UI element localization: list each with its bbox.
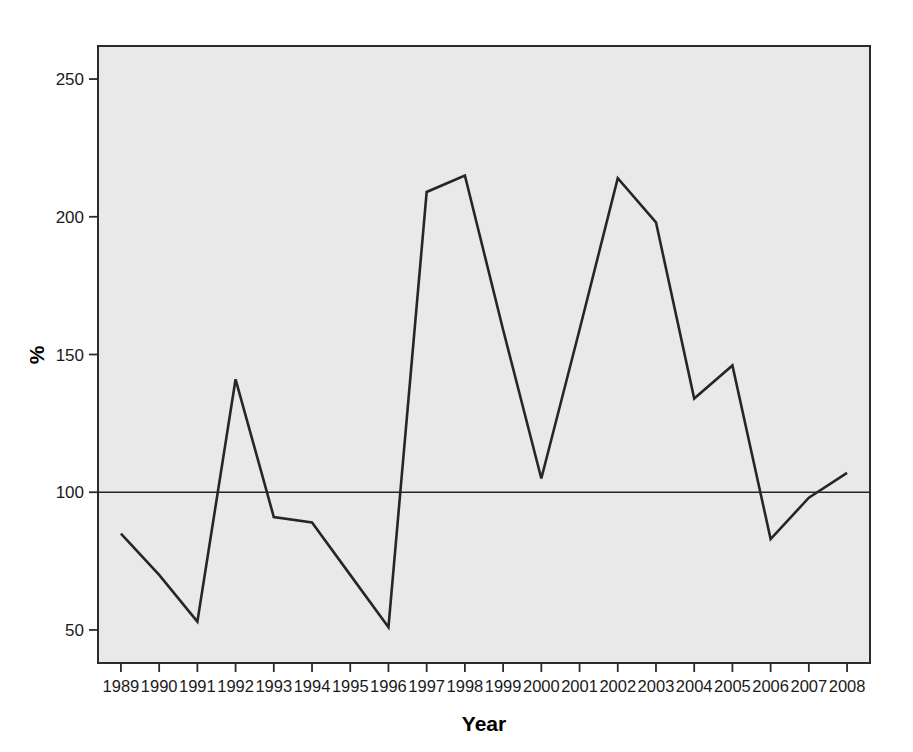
x-tick-label: 1995 xyxy=(332,677,369,695)
x-tick-label: 2005 xyxy=(714,677,751,695)
x-tick-label: 1997 xyxy=(408,677,445,695)
x-tick-label: 1994 xyxy=(294,677,331,695)
y-tick-label: 150 xyxy=(56,346,84,365)
plot-background xyxy=(98,46,870,663)
y-tick-label: 200 xyxy=(56,208,84,227)
x-tick-label: 2002 xyxy=(599,677,636,695)
x-tick-label: 1996 xyxy=(370,677,407,695)
x-tick-label: 1990 xyxy=(141,677,178,695)
x-tick-label: 1998 xyxy=(447,677,484,695)
x-tick-label: 2004 xyxy=(676,677,713,695)
x-tick-label: 2003 xyxy=(638,677,675,695)
y-axis-title: % xyxy=(25,345,48,364)
x-axis: 1989199019911992199319941995199619971998… xyxy=(103,663,866,695)
x-tick-label: 1993 xyxy=(255,677,292,695)
x-tick-label: 1992 xyxy=(217,677,254,695)
x-tick-label: 2001 xyxy=(561,677,598,695)
chart-container: 50100150200250 1989199019911992199319941… xyxy=(0,0,913,752)
y-axis: 50100150200250 xyxy=(56,70,98,640)
x-tick-label: 1991 xyxy=(179,677,216,695)
x-tick-label: 1999 xyxy=(485,677,522,695)
x-tick-label: 2000 xyxy=(523,677,560,695)
y-tick-label: 100 xyxy=(56,483,84,502)
line-chart: 50100150200250 1989199019911992199319941… xyxy=(0,0,913,752)
x-tick-label: 2007 xyxy=(790,677,827,695)
x-axis-title: Year xyxy=(462,712,506,735)
x-tick-label: 2006 xyxy=(752,677,789,695)
y-tick-label: 250 xyxy=(56,70,84,89)
x-tick-label: 1989 xyxy=(103,677,140,695)
y-tick-label: 50 xyxy=(65,621,84,640)
x-tick-label: 2008 xyxy=(829,677,866,695)
